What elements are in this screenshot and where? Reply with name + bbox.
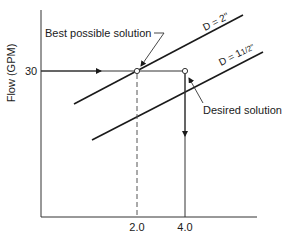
flow-diameter-diagram: Flow (GPM) 30 2.0 4.0 Best possible solu… <box>0 0 290 234</box>
x-tick-4: 4.0 <box>177 221 192 233</box>
label-d-1-5in: D = 11/2" <box>217 41 256 68</box>
desired-leader <box>189 78 203 103</box>
desired-solution-label: Desired solution <box>203 104 282 116</box>
y-tick-30: 30 <box>25 65 37 77</box>
x-tick-2: 2.0 <box>129 221 144 233</box>
best-point <box>134 68 139 73</box>
y-axis-label: Flow (GPM) <box>5 44 17 103</box>
best-solution-label: Best possible solution <box>45 27 151 39</box>
line-d-1-5in <box>92 52 263 140</box>
desired-point <box>182 68 187 73</box>
